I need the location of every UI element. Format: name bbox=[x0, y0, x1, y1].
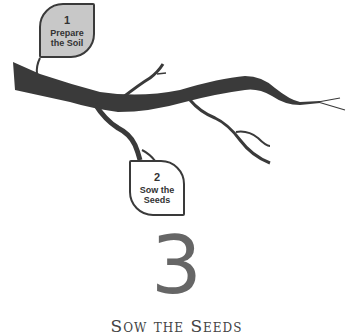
right-lower-branch bbox=[190, 100, 270, 163]
current-step-number: 3 bbox=[0, 226, 353, 306]
right-tip-fork bbox=[318, 98, 345, 110]
step-2-number: 2 bbox=[154, 171, 160, 183]
step-1-number: 1 bbox=[64, 14, 70, 26]
step-2-label-line1: Sow the bbox=[140, 185, 175, 195]
step-1-label-line2: the Soil bbox=[51, 38, 84, 48]
leaf-1-stem bbox=[37, 58, 40, 74]
lower-branch bbox=[95, 104, 140, 160]
upper-twig-fork bbox=[157, 73, 166, 74]
step-1-label-line1: Prepare bbox=[50, 28, 84, 38]
step-1-leaf[interactable]: 1 Prepare the Soil bbox=[39, 3, 95, 58]
upper-twig bbox=[122, 64, 163, 98]
right-lower-twig bbox=[236, 132, 270, 146]
main-branch bbox=[13, 62, 320, 112]
step-2-leaf[interactable]: 2 Sow the Seeds bbox=[129, 160, 185, 216]
current-step-title: Sow the Seeds bbox=[0, 316, 353, 333]
step-2-label-line2: Seeds bbox=[144, 195, 171, 205]
